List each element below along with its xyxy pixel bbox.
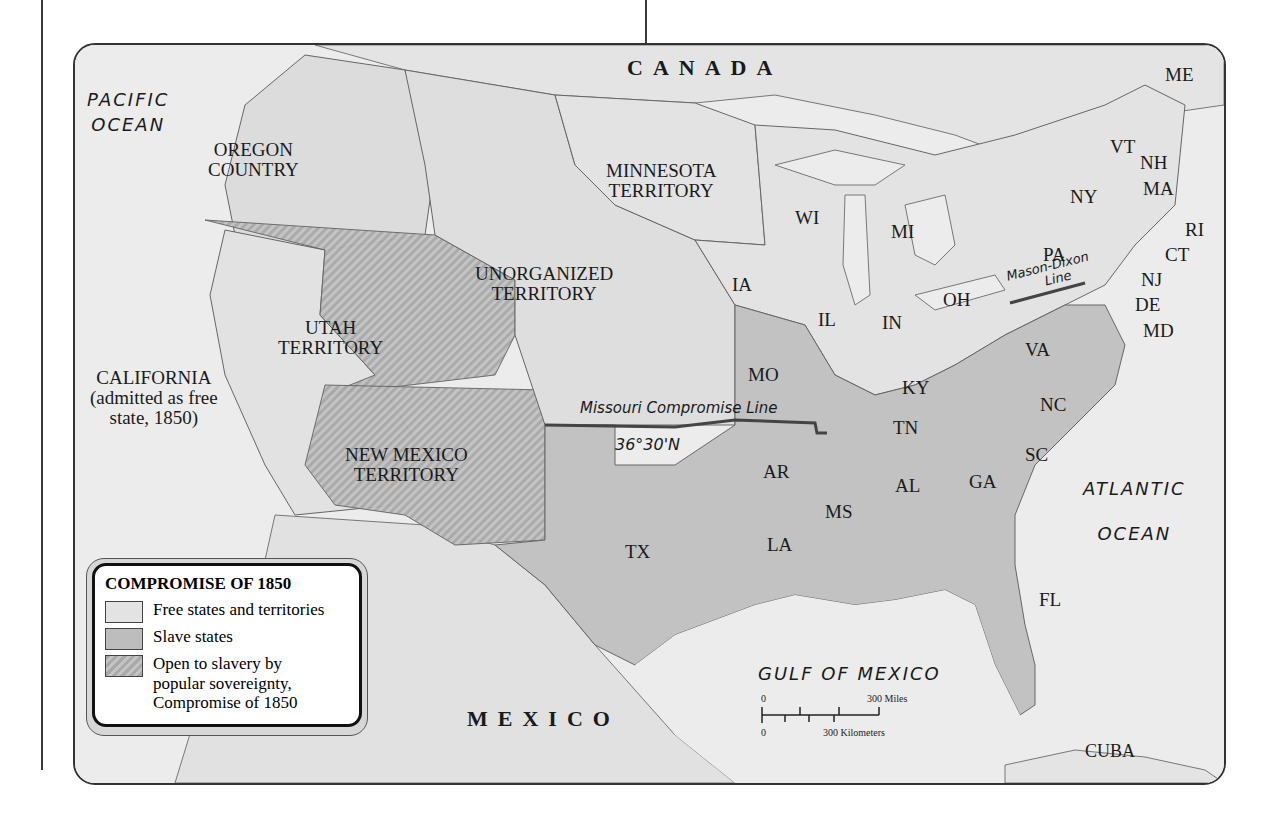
page-rule-left bbox=[41, 0, 43, 770]
label-state-md: MD bbox=[1143, 321, 1174, 341]
label-california: CALIFORNIA (admitted as free state, 1850… bbox=[90, 368, 218, 428]
label-state-oh: OH bbox=[943, 290, 970, 310]
label-minnesota-territory: MINNESOTA TERRITORY bbox=[606, 161, 716, 201]
label-state-vt: VT bbox=[1110, 137, 1135, 157]
pacific-line1: PACIFIC bbox=[87, 91, 169, 110]
legend-item-slave: Slave states bbox=[105, 627, 349, 650]
legend-item-label: Open to slavery by popular sovereignty, … bbox=[153, 654, 333, 713]
california-line2: (admitted as free bbox=[90, 388, 218, 408]
california-line3: state, 1850) bbox=[90, 408, 218, 428]
pacific-line2: OCEAN bbox=[87, 116, 169, 135]
label-unorganized-territory: UNORGANIZED TERRITORY bbox=[475, 264, 613, 304]
label-state-wi: WI bbox=[795, 208, 819, 228]
label-state-nc: NC bbox=[1040, 395, 1066, 415]
label-state-va: VA bbox=[1025, 340, 1050, 360]
map-legend: COMPROMISE OF 1850 Free states and terri… bbox=[86, 558, 368, 736]
label-state-ar: AR bbox=[763, 462, 789, 482]
legend-panel: COMPROMISE OF 1850 Free states and terri… bbox=[92, 563, 362, 727]
california-line1: CALIFORNIA bbox=[90, 368, 218, 388]
label-state-nj: NJ bbox=[1141, 270, 1162, 290]
legend-item-free: Free states and territories bbox=[105, 600, 349, 623]
legend-item-popular-sovereignty: Open to slavery by popular sovereignty, … bbox=[105, 654, 349, 713]
utah-line1: UTAH bbox=[278, 318, 383, 338]
scale-miles-start: 0 bbox=[761, 693, 766, 704]
label-state-ny: NY bbox=[1070, 187, 1097, 207]
label-state-ct: CT bbox=[1165, 245, 1189, 265]
label-oregon-country: OREGON COUNTRY bbox=[208, 140, 299, 180]
label-state-ky: KY bbox=[902, 378, 929, 398]
label-state-de: DE bbox=[1135, 295, 1160, 315]
oregon-line2: COUNTRY bbox=[208, 160, 299, 180]
scale-km-start: 0 bbox=[761, 727, 766, 738]
compromise-1850-map: CANADA MEXICO CUBA PACIFIC OCEAN ATLANTI… bbox=[73, 43, 1226, 785]
page-rule-top bbox=[645, 0, 647, 44]
legend-item-label: Free states and territories bbox=[153, 600, 324, 620]
label-state-ms: MS bbox=[825, 502, 852, 522]
minnesota-line2: TERRITORY bbox=[606, 181, 716, 201]
label-gulf-of-mexico: GULF OF MEXICO bbox=[758, 665, 941, 684]
label-latitude-36-30: 36°30'N bbox=[615, 437, 680, 454]
label-missouri-compromise-line: Missouri Compromise Line bbox=[580, 401, 778, 417]
atlantic-line1: ATLANTIC bbox=[1083, 480, 1186, 499]
label-state-sc: SC bbox=[1025, 445, 1048, 465]
scale-bar-ticks bbox=[761, 705, 886, 725]
label-state-tx: TX bbox=[625, 542, 650, 562]
scale-bar: 0 300 Miles 0 300 Kilometers bbox=[761, 693, 921, 743]
label-state-al: AL bbox=[895, 476, 920, 496]
label-cuba: CUBA bbox=[1085, 742, 1135, 761]
label-state-la: LA bbox=[767, 535, 792, 555]
label-state-ia: IA bbox=[732, 275, 752, 295]
label-state-ri: RI bbox=[1185, 220, 1204, 240]
popular-sovereignty-swatch-icon bbox=[105, 655, 143, 677]
label-utah-territory: UTAH TERRITORY bbox=[278, 318, 383, 358]
unorganized-line1: UNORGANIZED bbox=[475, 264, 613, 284]
atlantic-line2: OCEAN bbox=[1083, 525, 1186, 544]
oregon-line1: OREGON bbox=[208, 140, 299, 160]
label-state-mi: MI bbox=[891, 222, 914, 242]
utah-line2: TERRITORY bbox=[278, 338, 383, 358]
label-state-il: IL bbox=[818, 310, 836, 330]
label-mexico: MEXICO bbox=[467, 707, 620, 730]
label-state-in: IN bbox=[882, 313, 902, 333]
legend-title: COMPROMISE OF 1850 bbox=[105, 574, 349, 594]
free-states-swatch-icon bbox=[105, 601, 143, 623]
label-state-mo: MO bbox=[748, 365, 779, 385]
label-pacific-ocean: PACIFIC OCEAN bbox=[87, 91, 169, 135]
new-mexico-line1: NEW MEXICO bbox=[345, 445, 468, 465]
label-atlantic-ocean: ATLANTIC OCEAN bbox=[1083, 480, 1186, 544]
label-new-mexico-territory: NEW MEXICO TERRITORY bbox=[345, 445, 468, 485]
unorganized-line2: TERRITORY bbox=[475, 284, 613, 304]
minnesota-line1: MINNESOTA bbox=[606, 161, 716, 181]
new-mexico-line2: TERRITORY bbox=[345, 465, 468, 485]
label-state-fl: FL bbox=[1039, 590, 1061, 610]
scale-miles-end: 300 Miles bbox=[867, 693, 907, 704]
label-state-tn: TN bbox=[893, 418, 918, 438]
label-state-ma: MA bbox=[1143, 179, 1174, 199]
legend-item-label: Slave states bbox=[153, 627, 233, 647]
label-state-me: ME bbox=[1165, 65, 1194, 85]
label-canada: CANADA bbox=[627, 56, 782, 79]
label-state-ga: GA bbox=[969, 472, 996, 492]
label-state-nh: NH bbox=[1140, 153, 1167, 173]
slave-states-swatch-icon bbox=[105, 628, 143, 650]
scale-km-end: 300 Kilometers bbox=[823, 727, 885, 738]
